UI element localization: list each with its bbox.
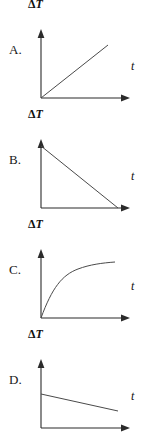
panel-d-data-line <box>41 394 118 411</box>
graph-panel-c: C. ΔT t <box>0 220 147 330</box>
panel-b-plot <box>0 110 147 220</box>
panel-c-plot <box>0 220 147 330</box>
panel-d-plot <box>0 330 147 437</box>
panel-a-data-line <box>41 45 108 98</box>
panel-a-plot <box>0 0 147 110</box>
panel-b-y-axis-arrowhead <box>38 139 45 148</box>
panel-d-y-axis-arrowhead <box>38 359 45 368</box>
panel-d-x-axis-arrowhead <box>121 425 130 432</box>
panel-a-x-axis-arrowhead <box>121 95 130 102</box>
panel-b-x-axis-arrowhead <box>121 205 130 212</box>
graph-panel-b: B. ΔT t <box>0 110 147 220</box>
panel-c-y-axis-arrowhead <box>38 249 45 258</box>
panel-c-x-axis-arrowhead <box>121 315 130 322</box>
graph-panel-a: A. ΔT t <box>0 0 147 110</box>
panel-b-data-line <box>41 146 118 208</box>
physics-graph-figure: A. ΔT t B. ΔT t C. ΔT t <box>0 0 147 437</box>
panel-a-y-axis-arrowhead <box>38 29 45 38</box>
graph-panel-d: D. ΔT t <box>0 330 147 437</box>
panel-c-data-curve <box>41 262 115 318</box>
